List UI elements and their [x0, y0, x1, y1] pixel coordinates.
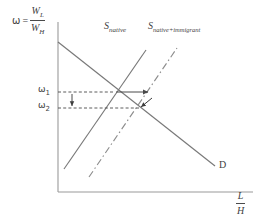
omega2-tick-label: ω2: [38, 101, 50, 113]
omega1-subscript: 1: [46, 89, 50, 97]
fraction-denominator: WH: [30, 22, 45, 36]
demand-curve-label: D: [219, 160, 226, 170]
omega1-symbol: ω: [38, 84, 46, 94]
omega1-tick-label: ω1: [38, 85, 50, 97]
omega-symbol: ω: [12, 16, 20, 26]
supply-native-immigrant-label: Snative+immigrant: [148, 21, 200, 34]
supply-native-label: Snative: [104, 21, 126, 34]
supply-native-curve: [64, 50, 146, 169]
fraction-bar: [30, 20, 45, 21]
x-denominator: H: [236, 205, 245, 217]
numerator-subscript: L: [40, 11, 44, 19]
new-equilibrium-arrow: [141, 98, 152, 107]
x-axis-label: L H: [236, 190, 245, 216]
omega2-subscript: 2: [46, 105, 50, 113]
labor-ratio-fraction: L H: [236, 190, 245, 216]
supply-native-label-sub: native: [109, 26, 126, 34]
supply-demand-figure: ω = WL WH L H Snative Snative+immigrant …: [0, 0, 259, 222]
wage-ratio-fraction: WL WH: [30, 5, 45, 36]
omega2-symbol: ω: [38, 100, 46, 110]
x-numerator: L: [237, 190, 245, 202]
numerator-base: W: [32, 5, 40, 16]
y-axis-label: ω = WL WH: [12, 5, 45, 36]
x-fraction-bar: [236, 203, 245, 204]
fraction-numerator: WL: [31, 5, 45, 19]
supply-native-immigrant-curve: [89, 48, 177, 177]
supply-ni-label-sub: native+immigrant: [153, 26, 200, 33]
demand-curve: [58, 42, 215, 166]
equals-sign: =: [22, 16, 28, 26]
denominator-subscript: H: [39, 28, 44, 36]
